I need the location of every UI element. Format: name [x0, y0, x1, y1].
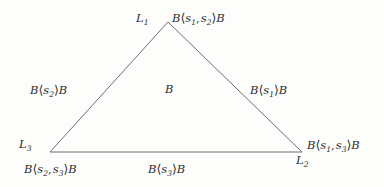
- region-label-bottom-center: B⟨s3⟩B: [148, 163, 185, 176]
- triangle-diagram: L1 L3 L2 B⟨s1, s2⟩B B⟨s2⟩B B B⟨s1⟩B B⟨s2…: [0, 0, 384, 187]
- triangle-edge-left: [50, 22, 168, 152]
- region-label-left: B⟨s2⟩B: [30, 84, 67, 97]
- region-label-bottom-right: B⟨s1, s3⟩B: [307, 139, 360, 152]
- region-label-top-right: B⟨s1, s2⟩B: [172, 12, 225, 25]
- region-label-center: B: [165, 84, 173, 96]
- region-label-bottom-left: B⟨s2, s3⟩B: [24, 163, 77, 176]
- vertex-label-l2: L2: [296, 155, 308, 167]
- vertex-label-l3: L3: [19, 139, 31, 151]
- vertex-label-l1: L1: [136, 13, 148, 25]
- region-label-right: B⟨s1⟩B: [250, 84, 287, 97]
